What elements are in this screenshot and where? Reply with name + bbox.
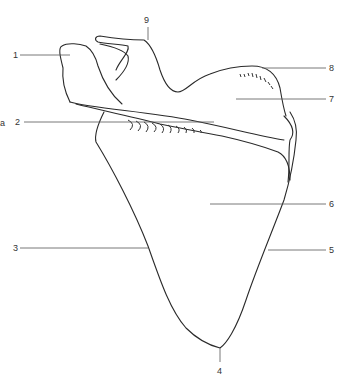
label-1: 1 [13, 50, 18, 60]
label-8: 8 [329, 63, 334, 73]
label-2: 2 [15, 117, 20, 127]
lateral-border [220, 112, 297, 348]
label-5: 5 [329, 245, 334, 255]
spine-lower [76, 104, 290, 180]
stray-mark: a [0, 118, 5, 128]
medial-border [95, 112, 220, 348]
coracoid-inner [100, 44, 128, 80]
label-9: 9 [144, 15, 149, 25]
supraspinous-hatching [240, 73, 273, 89]
label-7: 7 [329, 94, 334, 104]
spine-upper [70, 102, 284, 140]
coracoid-outline [96, 36, 286, 116]
acromion-outline [60, 44, 122, 104]
scapula-diagram [0, 0, 344, 379]
label-6: 6 [329, 199, 334, 209]
label-4: 4 [217, 366, 222, 376]
label-3: 3 [13, 243, 18, 253]
